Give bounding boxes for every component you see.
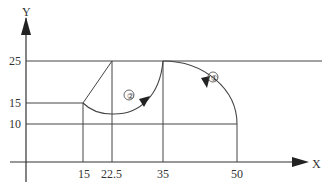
x-tick-50: 50 [231,167,243,181]
toolpath-arc-2 [83,61,163,114]
arc-2-label: ② [127,92,134,101]
y-axis-arrow-icon [21,17,31,35]
y-tick-25: 25 [9,54,21,68]
toolpath-line-segment [83,61,112,103]
toolpath-arc-1 [163,61,237,124]
x-tick-35: 35 [157,167,169,181]
x-axis-arrow-icon [292,157,309,167]
arc-1-arrow-icon [201,76,210,88]
coordinate-diagram: Y X ① ② 25 15 10 15 22.5 35 50 [0,0,323,186]
x-tick-15: 15 [78,167,90,181]
y-axis-label: Y [22,5,31,19]
x-axis-label: X [312,157,321,171]
y-tick-10: 10 [9,117,21,131]
x-tick-22-5: 22.5 [101,167,122,181]
y-tick-15: 15 [9,96,21,110]
arc-1-label: ① [211,74,218,83]
